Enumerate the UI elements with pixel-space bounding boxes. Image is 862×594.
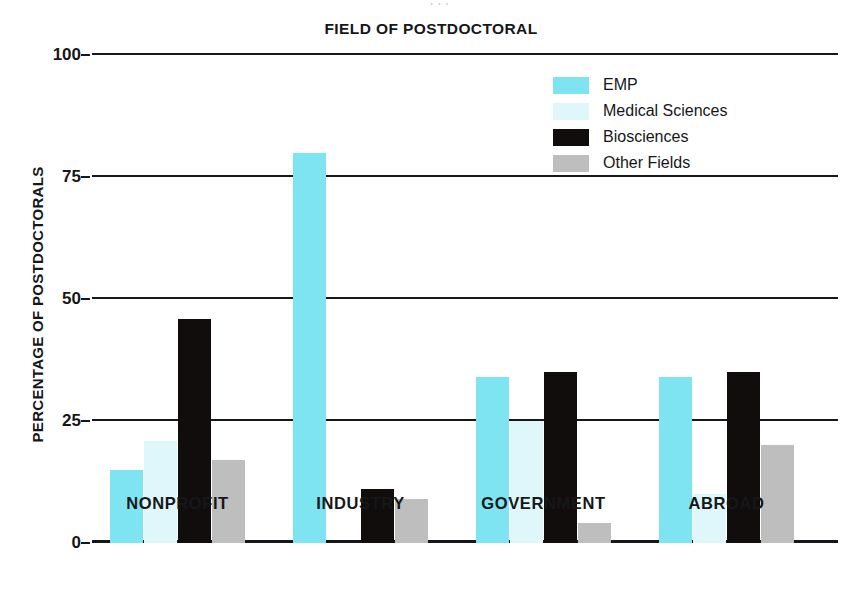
- bar: [476, 377, 509, 543]
- chart-title: FIELD OF POSTDOCTORAL: [0, 20, 862, 38]
- y-tick-label: 50: [62, 289, 81, 309]
- bar-group: [293, 55, 443, 543]
- bar: [761, 445, 794, 543]
- y-axis-title: PERCENTAGE OF POSTDOCTORALS: [29, 95, 46, 515]
- y-tick-mark: [81, 54, 90, 56]
- y-tick-label: 100: [53, 45, 81, 65]
- page-bleed-artifact: · · ·: [430, 0, 610, 9]
- legend-label: Medical Sciences: [603, 102, 728, 120]
- legend-swatch-icon: [553, 155, 589, 172]
- bar: [144, 441, 177, 543]
- y-tick-label: 75: [62, 167, 81, 187]
- legend-item: Biosciences: [553, 124, 823, 150]
- legend-swatch-icon: [553, 103, 589, 120]
- legend-label: Biosciences: [603, 128, 688, 146]
- bar-group: [110, 55, 260, 543]
- y-tick-label: 0: [72, 533, 81, 553]
- x-tick-label: INDUSTRY: [316, 494, 405, 513]
- x-tick-label: ABROAD: [688, 494, 764, 513]
- legend-swatch-icon: [553, 129, 589, 146]
- bar: [659, 377, 692, 543]
- legend-label: EMP: [603, 76, 638, 94]
- bar: [578, 523, 611, 543]
- legend-item: Medical Sciences: [553, 98, 823, 124]
- bar: [727, 372, 760, 543]
- y-tick-mark: [81, 542, 90, 544]
- bar: [510, 421, 543, 543]
- x-tick-label: GOVERNMENT: [481, 494, 605, 513]
- legend-label: Other Fields: [603, 154, 690, 172]
- bar: [544, 372, 577, 543]
- chart-legend: EMPMedical SciencesBiosciencesOther Fiel…: [553, 72, 823, 176]
- y-tick-mark: [81, 420, 90, 422]
- y-tick-mark: [81, 176, 90, 178]
- y-tick-mark: [81, 298, 90, 300]
- legend-item: Other Fields: [553, 150, 823, 176]
- y-tick-label: 25: [62, 411, 81, 431]
- legend-swatch-icon: [553, 77, 589, 94]
- chart-figure: · · · FIELD OF POSTDOCTORAL PERCENTAGE O…: [0, 0, 862, 594]
- bar: [293, 153, 326, 543]
- legend-item: EMP: [553, 72, 823, 98]
- x-tick-label: NONPROFIT: [126, 494, 229, 513]
